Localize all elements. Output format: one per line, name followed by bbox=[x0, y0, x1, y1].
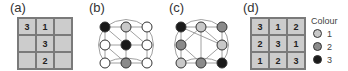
grid-cell: 2 bbox=[269, 52, 287, 69]
graph-node bbox=[217, 40, 227, 50]
graph-node bbox=[196, 22, 206, 32]
grid-cell: 2 bbox=[251, 35, 269, 52]
graph-node bbox=[217, 58, 227, 68]
graph-node bbox=[176, 22, 186, 32]
grid-cell: 3 bbox=[287, 52, 305, 69]
colour-3-dot-icon bbox=[313, 55, 322, 64]
legend-item-label: 1 bbox=[327, 29, 332, 39]
legend-item-label: 3 bbox=[327, 55, 332, 65]
colour-2-dot-icon bbox=[313, 42, 322, 51]
colour-legend: Colour 1 2 3 bbox=[311, 16, 347, 66]
legend-item-1: 1 bbox=[313, 27, 347, 40]
grid-cell: 1 bbox=[287, 35, 305, 52]
graph-node bbox=[217, 22, 227, 32]
grid-cell: 1 bbox=[269, 18, 287, 35]
legend-item-label: 2 bbox=[327, 42, 332, 52]
grid-cell: 3 bbox=[269, 35, 287, 52]
graph-node bbox=[176, 58, 186, 68]
grid-cell: 1 bbox=[251, 52, 269, 69]
grid-cell: 3 bbox=[251, 18, 269, 35]
graph-node bbox=[176, 40, 186, 50]
legend-item-2: 2 bbox=[313, 40, 347, 53]
puzzle-grid-d: 3 1 2 2 3 1 1 2 3 bbox=[250, 17, 306, 70]
legend-item-3: 3 bbox=[313, 53, 347, 66]
colour-1-dot-icon bbox=[313, 29, 322, 38]
graph-node bbox=[196, 58, 206, 68]
legend-title: Colour bbox=[311, 16, 347, 27]
grid-cell: 2 bbox=[287, 18, 305, 35]
